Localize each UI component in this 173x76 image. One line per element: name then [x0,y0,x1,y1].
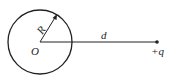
radius-label: R [33,24,47,37]
point-charge-dot [155,40,159,44]
distance-label: d [101,29,107,41]
center-label: O [31,45,39,57]
sphere-charge-diagram: R O d +q [0,0,173,76]
radius-arrowhead-icon [53,14,58,20]
charge-label: +q [151,45,164,57]
